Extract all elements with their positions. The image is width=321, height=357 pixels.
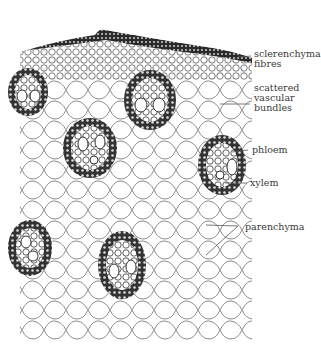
label-phloem: phloem xyxy=(252,145,288,155)
label-xylem: xylem xyxy=(250,178,278,188)
label-line: parenchyma xyxy=(245,222,305,232)
stem-cross-section-figure: sclerenchyma fibres scattered vascular b… xyxy=(0,0,321,357)
label-line: phloem xyxy=(252,145,288,155)
label-parenchyma: parenchyma xyxy=(245,222,305,232)
label-line: fibres xyxy=(254,59,321,69)
label-line: xylem xyxy=(250,178,278,188)
label-line: bundles xyxy=(254,103,299,113)
label-scattered-vascular-bundles: scattered vascular bundles xyxy=(254,83,299,113)
label-sclerenchyma-fibres: sclerenchyma fibres xyxy=(254,49,321,69)
